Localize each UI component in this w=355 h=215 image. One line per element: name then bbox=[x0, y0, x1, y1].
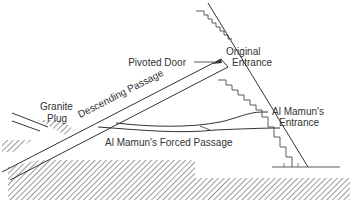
casing-steps-upper bbox=[196, 11, 232, 39]
label-al-mamun-entrance-1: Al Mamun's bbox=[272, 106, 324, 117]
pivoted-door-shape bbox=[212, 59, 222, 64]
original-entrance-end bbox=[221, 59, 228, 67]
pyramid-cross-section-diagram: Pivoted Door Original Entrance Granite P… bbox=[0, 0, 355, 215]
label-original-entrance-1: Original bbox=[226, 46, 260, 57]
label-granite-plug-2: Plug bbox=[47, 113, 67, 124]
label-original-entrance-2: Entrance bbox=[232, 57, 272, 68]
forced-passage-leader bbox=[200, 126, 210, 130]
forced-passage-upper bbox=[116, 112, 268, 126]
label-descending-passage: Descending Passage bbox=[76, 67, 166, 120]
label-al-mamun-forced-passage: Al Mamun's Forced Passage bbox=[105, 137, 233, 148]
forced-passage-lower bbox=[98, 127, 280, 132]
descending-passage-upper-wall bbox=[2, 59, 221, 172]
label-al-mamun-entrance-2: Entrance bbox=[279, 117, 319, 128]
label-pivoted-door: Pivoted Door bbox=[128, 57, 186, 68]
bedrock-hatching bbox=[2, 140, 350, 200]
label-granite-plug-1: Granite bbox=[40, 101, 73, 112]
